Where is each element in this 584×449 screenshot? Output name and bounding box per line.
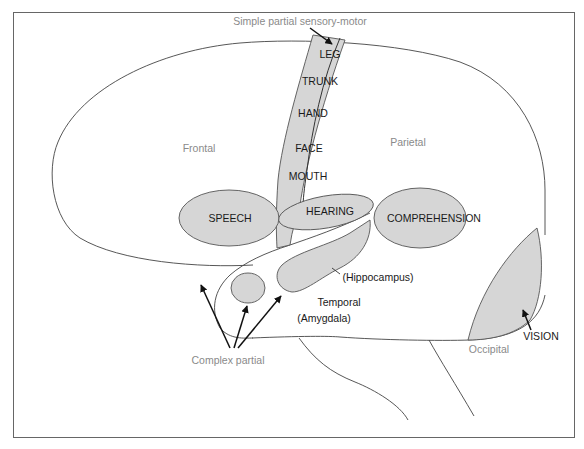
brain-seizure-diagram: Simple partial sensory-motor LEG TRUNK H… bbox=[0, 0, 584, 449]
occipital-label: Occipital bbox=[469, 343, 509, 355]
frontal-label: Frontal bbox=[183, 142, 216, 154]
complex-partial-label: Complex partial bbox=[192, 354, 265, 366]
motor-hand-label: HAND bbox=[298, 107, 328, 119]
hearing-label: HEARING bbox=[306, 205, 354, 217]
comprehension-label: COMPREHENSION bbox=[387, 212, 481, 224]
complex-partial-arrow-2 bbox=[234, 306, 247, 348]
complex-partial-arrow-1 bbox=[201, 285, 230, 348]
speech-label: SPEECH bbox=[208, 212, 251, 224]
brainstem-line-right bbox=[429, 340, 474, 416]
amygdala-label: (Amygdala) bbox=[297, 312, 351, 324]
brainstem-line-left bbox=[299, 338, 408, 420]
motor-trunk-label: TRUNK bbox=[302, 75, 338, 87]
parietal-label: Parietal bbox=[390, 136, 426, 148]
motor-mouth-label: MOUTH bbox=[289, 170, 328, 182]
title-label: Simple partial sensory-motor bbox=[233, 15, 367, 27]
vision-area bbox=[468, 228, 541, 340]
vision-label: VISION bbox=[523, 330, 559, 342]
complex-partial-arrow-3 bbox=[238, 296, 281, 348]
amygdala bbox=[231, 273, 265, 303]
motor-leg-label: LEG bbox=[319, 48, 340, 60]
motor-face-label: FACE bbox=[295, 142, 322, 154]
hippocampus-label: (Hippocampus) bbox=[342, 271, 413, 283]
temporal-label: Temporal bbox=[317, 296, 360, 308]
